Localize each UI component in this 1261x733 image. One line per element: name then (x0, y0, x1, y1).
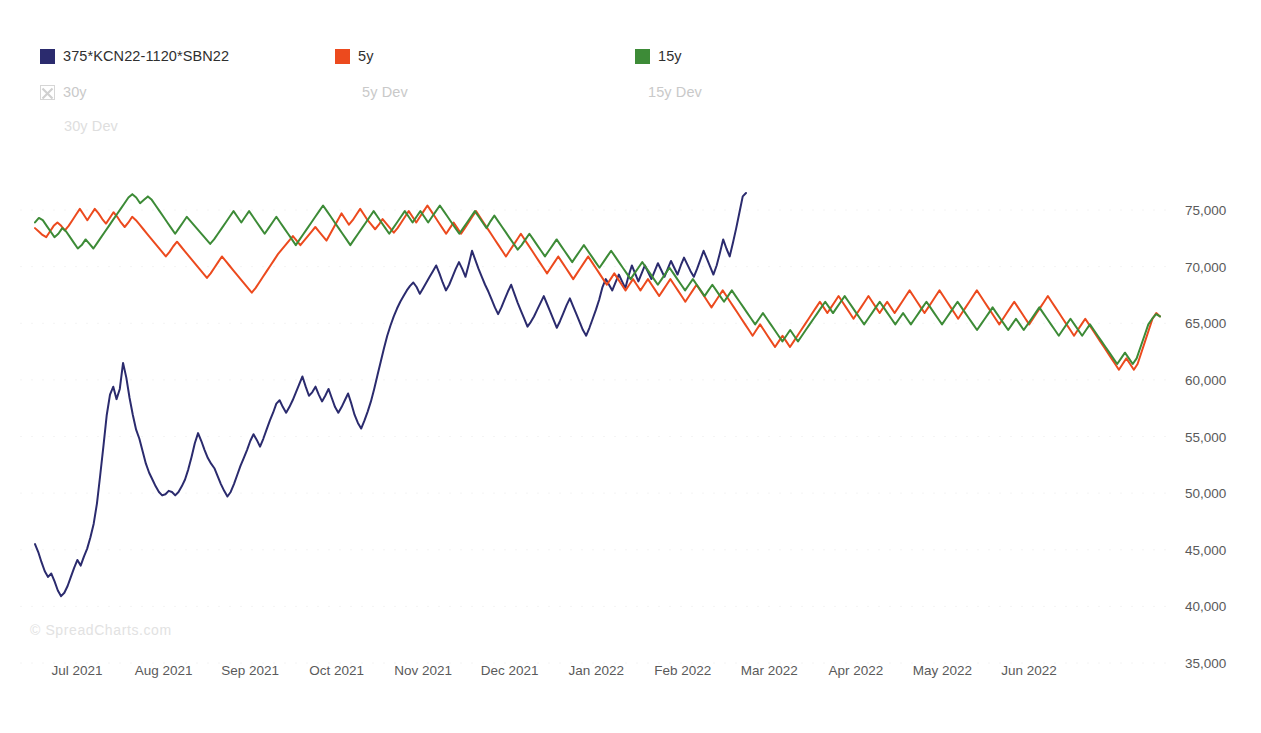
legend-label-30y: 30y (63, 84, 87, 100)
x-axis-tick-label: Nov 2021 (394, 663, 452, 678)
x-axis-tick-label: Jul 2021 (51, 663, 102, 678)
series-line-1 (35, 205, 1160, 369)
legend-item-15y[interactable]: 15y (635, 48, 682, 64)
x-axis-tick-label: Dec 2021 (481, 663, 539, 678)
legend-item-5y-dev[interactable]: 5y Dev (362, 84, 408, 100)
legend-label-15y-dev: 15y Dev (648, 84, 702, 100)
legend-label-15y: 15y (658, 48, 682, 64)
color-swatch-icon (40, 49, 55, 64)
y-axis-tick-label: 50,000 (1185, 486, 1226, 501)
x-axis-tick-label: Apr 2022 (828, 663, 883, 678)
x-axis-tick-label: Jan 2022 (568, 663, 624, 678)
x-axis: Jul 2021Aug 2021Sep 2021Oct 2021Nov 2021… (0, 663, 1261, 693)
plot-area (0, 150, 1261, 680)
color-swatch-icon (635, 49, 650, 64)
x-axis-tick-label: Mar 2022 (741, 663, 798, 678)
x-axis-tick-label: Aug 2021 (135, 663, 193, 678)
legend-item-30y[interactable]: 30y (40, 84, 87, 100)
legend-label-5y-dev: 5y Dev (362, 84, 408, 100)
x-box-icon (40, 85, 55, 100)
x-axis-tick-label: May 2022 (913, 663, 972, 678)
x-axis-tick-label: Feb 2022 (654, 663, 711, 678)
y-axis: 75,00070,00065,00060,00055,00050,00045,0… (1185, 150, 1261, 680)
y-axis-tick-label: 65,000 (1185, 316, 1226, 331)
y-axis-tick-label: 60,000 (1185, 372, 1226, 387)
color-swatch-icon (335, 49, 350, 64)
legend-item-15y-dev[interactable]: 15y Dev (648, 84, 702, 100)
chart-legend: 375*KCN22-1120*SBN22 5y 15y 30y 5y Dev 1… (0, 0, 1261, 140)
series-lines (35, 193, 1160, 596)
x-axis-tick-label: Sep 2021 (221, 663, 279, 678)
x-axis-tick-label: Jun 2022 (1001, 663, 1057, 678)
legend-item-5y[interactable]: 5y (335, 48, 374, 64)
legend-label-5y: 5y (358, 48, 374, 64)
spread-chart: 375*KCN22-1120*SBN22 5y 15y 30y 5y Dev 1… (0, 0, 1261, 733)
plot-canvas (0, 150, 1261, 680)
legend-label-30y-dev: 30y Dev (64, 118, 118, 134)
y-axis-tick-label: 45,000 (1185, 542, 1226, 557)
y-axis-tick-label: 40,000 (1185, 599, 1226, 614)
y-axis-tick-label: 75,000 (1185, 203, 1226, 218)
x-axis-tick-label: Oct 2021 (309, 663, 364, 678)
series-line-0 (35, 193, 746, 596)
legend-item-30y-dev[interactable]: 30y Dev (64, 118, 118, 134)
y-axis-tick-label: 55,000 (1185, 429, 1226, 444)
series-line-2 (35, 194, 1160, 364)
legend-label-spread: 375*KCN22-1120*SBN22 (63, 48, 229, 64)
legend-item-spread[interactable]: 375*KCN22-1120*SBN22 (40, 48, 229, 64)
y-axis-tick-label: 70,000 (1185, 259, 1226, 274)
gridlines (20, 210, 1175, 663)
